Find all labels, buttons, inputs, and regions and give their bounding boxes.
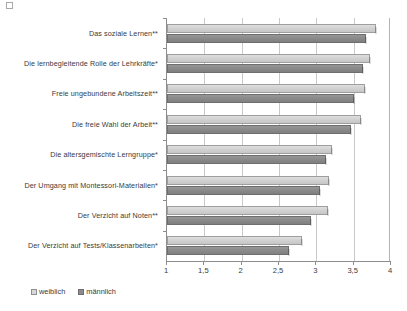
x-axis-tick [353,261,354,265]
category-label: Die lernbegleitende Rolle der Lehrkräfte… [0,48,162,78]
bar-weiblich [167,115,361,124]
category-tick [163,170,167,171]
plot-area [166,18,390,261]
bar-weiblich [167,54,370,63]
bar-group [167,109,389,139]
x-axis-tick [203,261,204,265]
x-axis-tick-labels: 11,522,533,54 [166,266,390,278]
category-tick [163,48,167,49]
x-axis-tick [390,261,391,265]
bar-group [167,170,389,200]
bar-chart: Das soziale Lernen** Die lernbegleitende… [0,0,407,311]
category-label: Die freie Wahl der Arbeit** [0,109,162,139]
bar-weiblich [167,84,365,93]
bar-maennlich [167,34,366,43]
category-tick [163,109,167,110]
legend-label: männlich [86,287,116,296]
legend-swatch-icon [31,289,37,295]
category-label: Freie ungebundene Arbeitszeit** [0,79,162,109]
bar-weiblich [167,176,329,185]
category-label: Der Verzicht auf Tests/Klassenarbeiten* [0,231,162,261]
x-axis-tick [166,261,167,265]
bar-rows [167,18,389,261]
bar-group [167,200,389,230]
bar-maennlich [167,155,326,164]
x-axis-tick-label: 3,5 [347,266,358,275]
bar-weiblich [167,236,302,245]
bar-weiblich [167,24,376,33]
bar-group [167,48,389,78]
bar-maennlich [167,94,354,103]
x-axis-tick-label: 2,5 [273,266,284,275]
bar-maennlich [167,125,351,134]
category-tick [163,140,167,141]
legend-item-maennlich: männlich [78,287,116,296]
category-label: Das soziale Lernen** [0,18,162,48]
bar-group [167,18,389,48]
legend: weiblich männlich [31,287,116,296]
category-axis-labels: Das soziale Lernen** Die lernbegleitende… [0,18,162,261]
bar-maennlich [167,186,320,195]
bar-group [167,140,389,170]
x-axis-tick-label: 3 [313,266,317,275]
bar-weiblich [167,145,332,154]
x-axis-tick-label: 1 [164,266,168,275]
category-label: Der Umgang mit Montessori-Materialien* [0,170,162,200]
bar-group [167,79,389,109]
legend-item-weiblich: weiblich [31,287,65,296]
bar-maennlich [167,64,363,73]
x-axis-line [166,261,390,262]
category-tick [163,231,167,232]
bar-maennlich [167,216,311,225]
x-axis-tick-label: 2 [239,266,243,275]
bar-maennlich [167,246,289,255]
x-axis-tick [241,261,242,265]
legend-swatch-icon [78,289,84,295]
category-tick [163,79,167,80]
x-axis-tick-label: 1,5 [198,266,209,275]
category-tick [163,200,167,201]
bar-weiblich [167,206,328,215]
category-label: Die altersgemischte Lerngruppe* [0,140,162,170]
legend-label: weiblich [39,287,65,296]
x-axis-tick [278,261,279,265]
scan-artifact [6,2,13,9]
x-axis-tick [315,261,316,265]
bar-group [167,231,389,261]
x-axis-tick-label: 4 [388,266,392,275]
category-label: Der Verzicht auf Noten** [0,200,162,230]
category-tick [163,18,167,19]
